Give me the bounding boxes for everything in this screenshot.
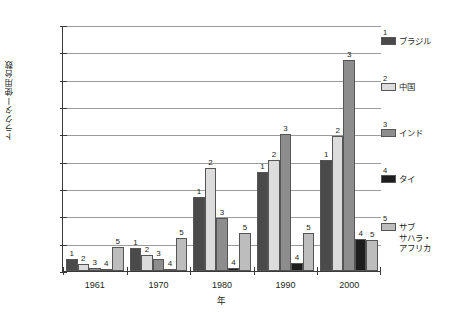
bar-series-label: 3 (93, 258, 97, 267)
bar: 4 (291, 263, 303, 271)
legend-label: サブ サハラ・ アフリカ (399, 216, 431, 254)
bar: 3 (153, 259, 165, 271)
legend-series-number: 5 (383, 215, 387, 223)
legend-color-swatch (381, 83, 396, 91)
bar: 2 (268, 160, 280, 271)
bar: 5 (239, 233, 251, 271)
bar: 3 (280, 134, 292, 271)
legend-item[interactable]: 5サブ サハラ・ アフリカ (381, 216, 431, 254)
legend-item[interactable]: 2中国 (381, 76, 415, 93)
bar: 5 (176, 238, 188, 271)
bar-series-label: 2 (272, 150, 276, 159)
x-axis-title: 年 (62, 294, 381, 306)
x-tick-mark (190, 267, 191, 275)
legend-label: タイ (399, 168, 415, 185)
bar-series-label: 2 (145, 245, 149, 254)
bar: 1 (257, 172, 269, 271)
legend-item[interactable]: 4タイ (381, 168, 415, 185)
legend-swatch-wrap: 2 (381, 76, 396, 91)
bar: 2 (332, 136, 344, 271)
bar: 5 (112, 247, 124, 271)
bar: 2 (141, 255, 153, 271)
legend-item[interactable]: 3インド (381, 122, 423, 139)
bar-series-label: 4 (104, 259, 108, 268)
bar-series-label: 4 (358, 229, 362, 238)
x-tick-mark (127, 267, 128, 275)
legend-series-number: 2 (383, 75, 387, 83)
legend-swatch-wrap: 4 (381, 168, 396, 183)
legend-series-number: 3 (383, 121, 387, 129)
bar: 4 (101, 269, 113, 271)
bar-series-label: 3 (156, 249, 160, 258)
legend-label: インド (399, 122, 423, 139)
bar-series-label: 1 (324, 150, 328, 159)
bar-series-label: 4 (168, 259, 172, 268)
bar-group: 123451980 (190, 26, 254, 271)
x-tick-label: 1990 (276, 280, 296, 290)
x-tick-mark (63, 267, 64, 275)
bar: 1 (66, 259, 78, 271)
bar-series-label: 5 (306, 223, 310, 232)
x-tick-label: 1980 (212, 280, 232, 290)
legend-label: 中国 (399, 76, 415, 93)
bar-series-label: 5 (243, 223, 247, 232)
x-tick-mark (317, 267, 318, 275)
bar: 4 (164, 269, 176, 271)
bar: 3 (216, 218, 228, 271)
bar-group: 123452000 (317, 26, 381, 271)
bar: 1 (130, 248, 142, 271)
bar-series-label: 2 (208, 158, 212, 167)
legend-series-number: 4 (383, 167, 387, 175)
bar: 4 (228, 268, 240, 271)
bar: 2 (78, 264, 90, 271)
bar-series-label: 5 (370, 230, 374, 239)
legend-color-swatch (381, 129, 396, 137)
bar: 1 (320, 160, 332, 271)
bar-series-label: 5 (116, 237, 120, 246)
bar-series-label: 1 (260, 162, 264, 171)
bar: 1 (193, 197, 205, 271)
y-axis-title: トラクター使用台数 (6, 60, 20, 141)
bar-series-label: 2 (81, 254, 85, 263)
legend-swatch-wrap: 5 (381, 216, 396, 231)
bar-series-label: 3 (220, 208, 224, 217)
bar-series-label: 3 (347, 50, 351, 59)
bar-series-label: 4 (295, 253, 299, 262)
x-tick-label: 1961 (85, 280, 105, 290)
legend-swatch-wrap: 1 (381, 30, 396, 45)
bar: 4 (355, 239, 367, 271)
bar-series-label: 1 (197, 187, 201, 196)
bar-series-label: 3 (283, 124, 287, 133)
bar: 3 (343, 60, 355, 271)
x-tick-mark (380, 267, 381, 275)
plot-area: 02004006008001 0001 2001 4001 6001 800 1… (62, 26, 381, 272)
legend-swatch-wrap: 3 (381, 122, 396, 137)
bar: 5 (366, 240, 378, 271)
bar-series-label: 2 (335, 126, 339, 135)
bar-series-label: 1 (70, 249, 74, 258)
bar-series-label: 5 (179, 228, 183, 237)
bar-groups: 1234519611234519701234519801234519901234… (63, 26, 381, 271)
bar-group: 123451961 (63, 26, 127, 271)
legend-label: ブラジル (399, 30, 431, 47)
bar: 3 (89, 268, 101, 271)
bar-series-label: 4 (231, 258, 235, 267)
bar: 5 (303, 233, 315, 271)
bar-chart: トラクター使用台数 02004006008001 0001 2001 4001 … (0, 0, 450, 312)
x-tick-label: 2000 (339, 280, 359, 290)
bar-group: 123451990 (254, 26, 318, 271)
bar: 2 (205, 168, 217, 271)
legend-item[interactable]: 1ブラジル (381, 30, 431, 47)
x-tick-mark (254, 267, 255, 275)
legend-color-swatch (381, 223, 396, 231)
legend-color-swatch (381, 175, 396, 183)
bar-series-label: 1 (133, 238, 137, 247)
legend-color-swatch (381, 37, 396, 45)
legend-series-number: 1 (383, 29, 387, 37)
x-tick-label: 1970 (148, 280, 168, 290)
bar-group: 123451970 (127, 26, 191, 271)
